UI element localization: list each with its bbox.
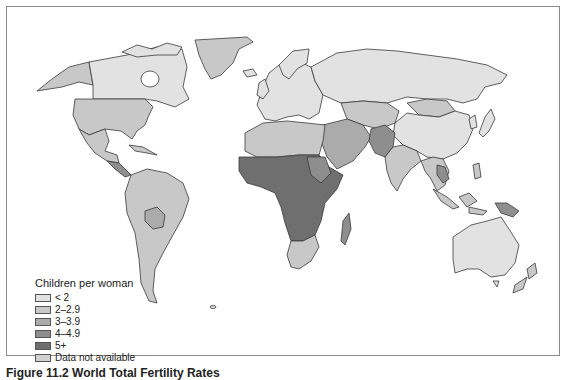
legend-label: 3–3.9	[55, 316, 80, 327]
region-mexico	[79, 129, 119, 163]
map-legend: Children per woman < 2 2–2.9 3–3.9 4–4.9…	[35, 277, 135, 364]
region-new-zealand	[513, 263, 537, 293]
legend-swatch	[35, 354, 51, 362]
region-hudson-bay	[141, 71, 159, 87]
map-frame: Children per woman < 2 2–2.9 3–3.9 4–4.9…	[6, 6, 560, 356]
region-madagascar	[341, 213, 351, 245]
region-arctic-islands	[122, 43, 182, 57]
legend-label: < 2	[55, 292, 69, 303]
region-india	[385, 145, 421, 191]
region-island	[210, 306, 216, 309]
region-alaska	[37, 62, 93, 91]
legend-swatch	[35, 294, 51, 302]
legend-item: 2–2.9	[35, 304, 135, 315]
legend-label: 2–2.9	[55, 304, 80, 315]
region-indonesia	[433, 189, 487, 215]
legend-item: Data not available	[35, 352, 135, 363]
region-japan	[479, 109, 495, 137]
figure-caption: Figure 11.2 World Total Fertility Rates	[6, 366, 220, 380]
region-tasmania	[493, 281, 499, 287]
legend-item: < 2	[35, 292, 135, 303]
legend-swatch	[35, 306, 51, 314]
region-papua-new-guinea	[495, 203, 519, 217]
legend-label: 4–4.9	[55, 328, 80, 339]
region-middle-east	[321, 119, 371, 169]
region-north-africa	[245, 121, 325, 157]
region-philippines	[473, 163, 481, 179]
legend-label: 5+	[55, 340, 66, 351]
legend-item: 3–3.9	[35, 316, 135, 327]
legend-title: Children per woman	[35, 277, 135, 289]
legend-item: 5+	[35, 340, 135, 351]
legend-swatch	[35, 318, 51, 326]
legend-item: 4–4.9	[35, 328, 135, 339]
region-central-america	[107, 161, 131, 177]
region-iceland	[243, 69, 257, 77]
region-russia	[311, 49, 507, 103]
legend-swatch	[35, 342, 51, 350]
region-korea	[469, 115, 477, 129]
region-caribbean	[129, 145, 157, 155]
legend-label: Data not available	[55, 352, 135, 363]
region-australia	[453, 217, 519, 277]
legend-swatch	[35, 330, 51, 338]
